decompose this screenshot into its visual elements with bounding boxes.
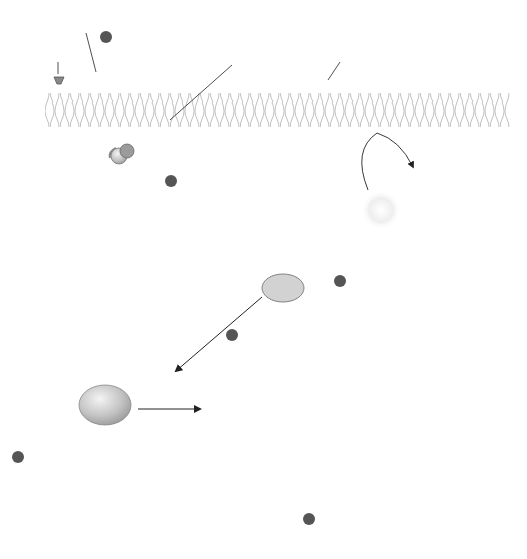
step-6 xyxy=(303,513,315,525)
step-4 xyxy=(226,329,238,341)
camp-to-kinase-arrow xyxy=(176,297,262,371)
camp-signaling-cascade-diagram xyxy=(0,0,527,559)
step-5 xyxy=(12,451,24,463)
camp-production-arrow xyxy=(377,133,413,167)
step-1 xyxy=(100,31,112,43)
step-1-badge xyxy=(100,31,112,43)
plasma-membrane xyxy=(45,93,510,127)
atp-burst-icon xyxy=(361,190,401,230)
inactive-g-protein-icon xyxy=(110,144,134,164)
signaling-molecule-icon xyxy=(54,62,64,84)
step-6-badge xyxy=(303,513,315,525)
step-4-badge xyxy=(226,329,238,341)
step-2-badge xyxy=(165,175,177,187)
step-3 xyxy=(334,275,346,287)
receptor-leader-line xyxy=(86,33,96,72)
step-3-badge xyxy=(334,275,346,287)
cyclase-leader-line xyxy=(328,62,340,80)
step-5-badge xyxy=(12,451,24,463)
camp-molecule-single xyxy=(262,274,304,302)
step-2 xyxy=(165,175,177,187)
unphosphorylated-protein xyxy=(79,385,131,425)
atp-curve-line xyxy=(362,133,377,190)
